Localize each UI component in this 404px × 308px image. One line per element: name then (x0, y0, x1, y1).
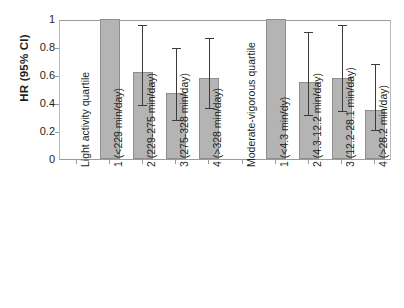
x-category-label: 1 (<229 min/day) (113, 37, 124, 167)
x-tick-mark (175, 160, 176, 164)
x-tick-mark (109, 160, 110, 164)
chart-figure: HR (95% CI) 00.20.40.60.81 Light activit… (0, 0, 404, 308)
error-bar (142, 25, 143, 105)
x-tick-mark (76, 160, 77, 164)
error-bar (342, 25, 343, 110)
y-tick-label: 0.8 (21, 42, 55, 53)
y-axis-ticks: 00.20.40.60.81 (21, 0, 55, 308)
error-bar-cap-upper (304, 32, 313, 33)
error-bar (308, 32, 309, 115)
x-category-label: 3 (12.2-28.1 min/day) (345, 37, 356, 167)
error-bar-cap-upper (138, 25, 147, 26)
y-tick-label: 1 (21, 14, 55, 25)
x-tick-mark (208, 160, 209, 164)
x-group-label: Moderate-vigorous quartile (246, 37, 257, 167)
y-tick-label: 0.6 (21, 70, 55, 81)
x-tick-mark (275, 160, 276, 164)
error-bar (176, 48, 177, 121)
y-tick-label: 0.4 (21, 98, 55, 109)
x-category-label: 3 (275-328 min/day) (179, 37, 190, 167)
x-tick-mark (341, 160, 342, 164)
bar-series (60, 21, 390, 159)
x-tick-mark (308, 160, 309, 164)
y-tick-label: 0.2 (21, 126, 55, 137)
plot-area (59, 20, 391, 160)
x-category-label: 2 (229-275 min/day) (146, 37, 157, 167)
x-category-label: 4 (>328 min/day) (212, 37, 223, 167)
x-tick-mark (374, 160, 375, 164)
x-category-label: 1 (<4.3 min/dy) (279, 37, 290, 167)
y-tick-mark (55, 132, 59, 133)
x-tick-mark (242, 160, 243, 164)
x-category-label: 2 (4.3-12.2 min/day) (312, 37, 323, 167)
error-bar (375, 64, 376, 130)
error-bar (209, 38, 210, 108)
y-tick-mark (55, 76, 59, 77)
x-tick-mark (142, 160, 143, 164)
y-tick-label: 0 (21, 154, 55, 165)
x-category-label: 4 (>28.2 min/day) (378, 37, 389, 167)
x-group-label: Light activity quartile (80, 37, 91, 167)
y-tick-mark (55, 104, 59, 105)
y-tick-mark (55, 48, 59, 49)
error-bar-cap-upper (338, 25, 347, 26)
